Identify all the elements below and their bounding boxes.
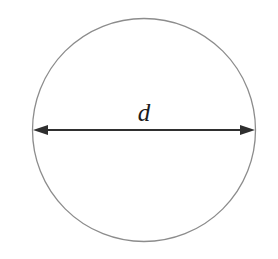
diameter-label: d	[138, 99, 151, 126]
circle-diameter-diagram: d	[0, 0, 278, 259]
figure-canvas: d	[0, 0, 278, 259]
